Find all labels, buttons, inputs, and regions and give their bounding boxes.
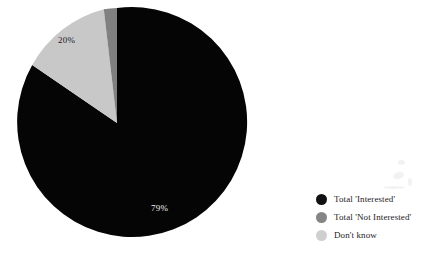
legend-swatch-total-interested <box>316 194 327 205</box>
pie-chart-figure: 79% 20% Total 'Interested' Total 'Not In… <box>0 0 437 256</box>
scan-artifact-icon <box>408 178 412 186</box>
legend-item-total-interested[interactable]: Total 'Interested' <box>316 190 437 208</box>
legend-item-total-not-interested[interactable]: Total 'Not Interested' <box>316 208 437 226</box>
legend-label-dont-know: Don't know <box>334 231 377 240</box>
scan-artifact-icon <box>392 170 405 180</box>
scan-artifact-icon <box>398 160 405 165</box>
legend-label-total-not-interested: Total 'Not Interested' <box>334 213 411 222</box>
chart-legend: Total 'Interested' Total 'Not Interested… <box>316 190 437 244</box>
legend-label-total-interested: Total 'Interested' <box>334 195 395 204</box>
scan-artifact-icon <box>383 186 405 189</box>
pie-chart-plot: 79% 20% <box>0 0 250 256</box>
legend-swatch-total-not-interested <box>316 212 327 223</box>
legend-swatch-dont-know <box>316 230 327 241</box>
pie-svg <box>0 0 250 256</box>
legend-item-dont-know[interactable]: Don't know <box>316 226 437 244</box>
